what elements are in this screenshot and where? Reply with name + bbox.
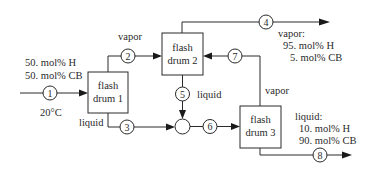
liquid-product-title: liquid: [295, 111, 323, 122]
stream-number: 5 [180, 89, 185, 100]
stream-number: 8 [318, 150, 323, 161]
drum-label-line1: flash [250, 114, 271, 125]
arrow-icon [319, 19, 330, 26]
flash-drum-1: flash drum 1 [88, 72, 128, 113]
arrow-icon [166, 124, 175, 131]
drum2-liquid-label: liquid [197, 89, 222, 100]
stream-6: 6 [190, 120, 240, 134]
arrow-icon [153, 53, 162, 60]
feed-comp-2: 50. mol% CB [25, 70, 82, 81]
process-flow-diagram: 1 50. mol% H 50. mol% CB 20°C flash drum… [0, 0, 371, 174]
mixer-node [175, 119, 190, 134]
arrow-icon [79, 90, 88, 97]
liquid-product-comp-2: 90. mol% CB [299, 135, 356, 146]
stream-number: 2 [126, 51, 131, 62]
stream-5: 5 [176, 75, 190, 119]
stream-1: 1 [20, 86, 88, 100]
vapor-product-title: vapor: [278, 28, 305, 39]
drum-label-line2: drum 1 [93, 93, 123, 104]
flash-drum-3: flash drum 3 [240, 106, 281, 148]
stream-8: 8 [260, 148, 352, 162]
feed-comp-1: 50. mol% H [25, 57, 76, 68]
flash-drum-2: flash drum 2 [162, 33, 203, 75]
stream-4: 4 [182, 15, 330, 33]
stream-number: 1 [48, 88, 53, 99]
vapor-product-comp-1: 95. mol% H [283, 40, 334, 51]
arrow-icon [203, 53, 212, 60]
stream-2: 2 [108, 49, 162, 72]
stream-3: 3 [108, 113, 175, 134]
arrow-icon [179, 110, 186, 119]
stream-number: 4 [264, 17, 269, 28]
arrow-icon [342, 152, 352, 159]
drum3-vapor-label: vapor [265, 85, 289, 96]
stream-number: 6 [208, 121, 213, 132]
stream-number: 7 [233, 51, 238, 62]
arrow-icon [231, 123, 240, 130]
drum1-vapor-label: vapor [118, 31, 142, 42]
liquid-product-comp-1: 10. mol% H [299, 123, 350, 134]
stream-number: 3 [125, 122, 130, 133]
vapor-product-comp-2: 5. mol% CB [290, 52, 342, 63]
drum-label-line2: drum 2 [167, 55, 197, 66]
feed-temperature: 20°C [40, 107, 62, 118]
drum1-liquid-label: liquid [79, 117, 104, 128]
drum-label-line1: flash [98, 80, 119, 91]
drum-label-line1: flash [172, 42, 193, 53]
drum-label-line2: drum 3 [245, 127, 275, 138]
